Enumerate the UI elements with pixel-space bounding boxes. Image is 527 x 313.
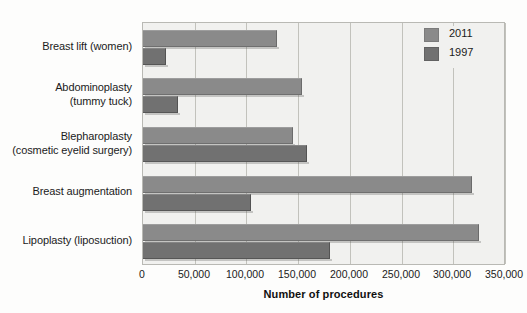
- x-tick-label-100000: 100,000: [226, 268, 264, 280]
- bar-2011-2[interactable]: [143, 78, 302, 95]
- category-label-line: Lipoplasty (liposuction): [0, 234, 132, 248]
- bar-1997-2[interactable]: [143, 96, 178, 113]
- gridline: [505, 23, 506, 264]
- category-label-3: Blepharoplasty(cosmetic eyelid surgery): [0, 130, 132, 157]
- x-tick-label-150000: 150,000: [278, 268, 316, 280]
- legend-swatch-1997: [424, 47, 439, 61]
- legend-label: 1997: [449, 46, 473, 58]
- x-tick-label-0: 0: [139, 268, 145, 280]
- bar-chart: Breast lift (women)Abdominoplasty(tummy …: [0, 0, 527, 313]
- x-axis-title: Number of procedures: [142, 288, 505, 300]
- x-tick-label-300000: 300,000: [433, 268, 471, 280]
- bar-2011-1[interactable]: [143, 30, 277, 47]
- category-label-5: Lipoplasty (liposuction): [0, 234, 132, 248]
- bar-1997-4[interactable]: [143, 194, 251, 211]
- bar-2011-5[interactable]: [143, 224, 479, 241]
- bar-shadow: [145, 162, 309, 164]
- x-tick-label-350000: 350,000: [485, 268, 523, 280]
- category-label-4: Breast augmentation: [0, 185, 132, 199]
- x-tick-label-250000: 250,000: [382, 268, 420, 280]
- x-tick-label-50000: 50,000: [178, 268, 210, 280]
- bar-shadow: [145, 211, 253, 213]
- bar-2011-3[interactable]: [143, 127, 293, 144]
- x-axis-tick-labels: 050,000100,000150,000200,000250,000300,0…: [0, 268, 527, 284]
- legend: 20111997: [413, 26, 499, 68]
- category-label-line: Breast augmentation: [0, 185, 132, 199]
- category-label-2: Abdominoplasty(tummy tuck): [0, 81, 132, 108]
- bar-shadow: [145, 259, 332, 261]
- category-label-line: (tummy tuck): [0, 95, 132, 109]
- category-label-line: Breast lift (women): [0, 40, 132, 54]
- legend-swatch-2011: [424, 28, 439, 42]
- category-label-line: Blepharoplasty: [0, 130, 132, 144]
- bar-2011-4[interactable]: [143, 176, 472, 193]
- category-label-line: Abdominoplasty: [0, 81, 132, 95]
- bar-shadow: [145, 65, 168, 67]
- legend-item-2011[interactable]: 2011: [413, 26, 499, 44]
- x-tick-label-200000: 200,000: [330, 268, 368, 280]
- legend-item-1997[interactable]: 1997: [413, 45, 499, 63]
- bar-1997-5[interactable]: [143, 242, 330, 259]
- bar-1997-3[interactable]: [143, 145, 307, 162]
- category-axis: Breast lift (women)Abdominoplasty(tummy …: [0, 22, 138, 265]
- category-label-line: (cosmetic eyelid surgery): [0, 144, 132, 158]
- bar-shadow: [145, 113, 180, 115]
- category-label-1: Breast lift (women): [0, 40, 132, 54]
- legend-label: 2011: [449, 27, 473, 39]
- bar-1997-1[interactable]: [143, 48, 166, 65]
